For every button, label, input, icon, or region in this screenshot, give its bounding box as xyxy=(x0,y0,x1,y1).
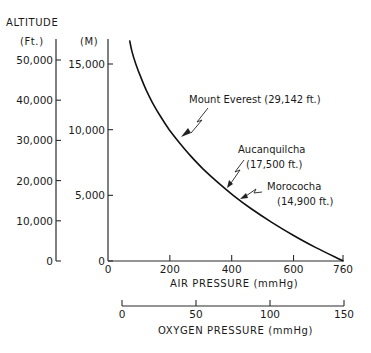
feet-axis-ticks: 010,00020,00030,00040,00050,000 xyxy=(16,54,61,267)
meters-tick-label: 15,000 xyxy=(68,58,105,70)
annotation-aucanquilcha-leader xyxy=(231,160,244,183)
annotation-morococha-altitude: (14,900 ft.) xyxy=(277,196,334,207)
annotation-morococha: Morococha (14,900 ft.) xyxy=(240,181,334,207)
oxygen-pressure-axis-title: OXYGEN PRESSURE (mmHg) xyxy=(158,325,313,336)
feet-tick-label: 10,000 xyxy=(16,215,53,227)
annotation-aucanquilcha-altitude: (17,500 ft.) xyxy=(246,159,303,170)
air-pressure-axis-ticks: 0200400600760 xyxy=(105,255,353,275)
meters-unit-label: (M) xyxy=(80,36,98,47)
feet-tick-label: 30,000 xyxy=(16,134,53,146)
annotation-aucanquilcha-name: Aucanquilcha xyxy=(238,144,305,155)
oxygen-pressure-tick-label: 50 xyxy=(189,308,202,320)
oxygen-pressure-tick-label: 0 xyxy=(119,308,126,320)
oxygen-pressure-tick-label: 150 xyxy=(334,308,354,320)
feet-tick-label: 20,000 xyxy=(16,175,53,187)
air-pressure-tick-label: 200 xyxy=(160,263,180,275)
altitude-header: ALTITUDE xyxy=(6,17,58,28)
air-pressure-axis-title: AIR PRESSURE (mmHg) xyxy=(170,278,298,289)
feet-tick-label: 40,000 xyxy=(16,94,53,106)
pressure-altitude-curve xyxy=(130,40,343,261)
annotation-mount-everest: Mount Everest (29,142 ft.) xyxy=(181,94,321,137)
oxygen-pressure-axis-ticks: 050100150 xyxy=(119,300,354,320)
oxygen-pressure-tick-label: 100 xyxy=(260,308,280,320)
meters-tick-label: 5,000 xyxy=(75,189,105,201)
feet-unit-label: (Ft.) xyxy=(20,36,44,47)
altitude-pressure-chart: ALTITUDE (Ft.) (M) 010,00020,00030,00040… xyxy=(0,0,371,353)
annotation-morococha-arrowhead-icon xyxy=(240,193,248,199)
air-pressure-tick-label: 400 xyxy=(222,263,242,275)
air-pressure-tick-label: 760 xyxy=(333,263,353,275)
air-pressure-tick-label: 600 xyxy=(284,263,304,275)
feet-tick-label: 50,000 xyxy=(16,54,53,66)
feet-tick-label: 0 xyxy=(46,255,53,267)
meters-axis-ticks: 05,00010,00015,000 xyxy=(68,58,113,267)
annotation-everest-arrowhead-icon xyxy=(181,128,191,137)
annotation-morococha-name: Morococha xyxy=(267,181,321,192)
meters-tick-label: 10,000 xyxy=(68,124,105,136)
air-pressure-tick-label: 0 xyxy=(105,263,112,275)
annotation-everest-leader xyxy=(191,108,208,133)
annotation-everest-label: Mount Everest (29,142 ft.) xyxy=(189,94,321,105)
annotation-morococha-leader xyxy=(246,189,262,196)
